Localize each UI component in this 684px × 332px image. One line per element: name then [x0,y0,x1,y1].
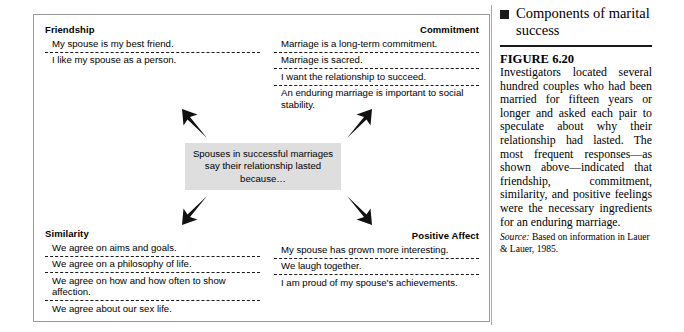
list-item: My spouse has grown more interesting. [274,243,479,258]
figure-page: Friendship My spouse is my best friend. … [0,0,684,332]
arrow-up-right-icon [343,107,377,141]
caption-heading: Components of marital success [500,5,652,38]
quadrant-title-positive-affect: Positive Affect [274,230,479,242]
item-list-similarity: We agree on aims and goals. We agree on … [45,241,260,317]
caption-body-text: Investigators located several hundred co… [500,66,652,229]
caption-heading-text: Components of marital success [516,5,652,38]
center-statement-text: Spouses in successful marriages say thei… [185,148,341,185]
list-item: We agree about our sex life. [45,300,260,317]
center-statement-box: Spouses in successful marriages say thei… [185,143,341,190]
list-item: I am proud of my spouse's achievements. [274,274,479,291]
arrow-down-right-icon [343,193,377,227]
caption-source-word: Source: [500,231,529,242]
list-item: Marriage is sacred. [274,52,479,69]
list-item: We agree on how and how often to show af… [45,272,260,300]
item-list-friendship: My spouse is my best friend. I like my s… [45,37,260,68]
quadrant-positive-affect: Positive Affect My spouse has grown more… [274,230,479,291]
item-list-positive-affect: My spouse has grown more interesting. We… [274,243,479,291]
filled-square-icon [500,10,509,19]
caption-column: Components of marital success FIGURE 6.2… [500,5,652,325]
figure-number-label: FIGURE 6.20 [500,52,652,67]
quadrant-friendship: Friendship My spouse is my best friend. … [45,24,260,68]
arrow-up-left-icon [177,107,211,141]
list-item: Marriage is a long-term commitment. [274,37,479,52]
list-item: We agree on a philosophy of life. [45,256,260,273]
list-item: We agree on aims and goals. [45,241,260,256]
caption-rule [500,45,652,47]
list-item: I want the relationship to succeed. [274,68,479,85]
list-item: My spouse is my best friend. [45,37,260,52]
quadrant-similarity: Similarity We agree on aims and goals. W… [45,228,260,317]
quadrant-title-commitment: Commitment [274,24,479,36]
item-list-commitment: Marriage is a long-term commitment. Marr… [274,37,479,113]
quadrant-title-similarity: Similarity [45,228,260,240]
quadrant-title-friendship: Friendship [45,24,260,36]
caption-source: Source: Based on information in Lauer & … [500,231,652,254]
arrow-down-left-icon [177,193,211,227]
list-item: We laugh together. [274,258,479,275]
figure-frame: Friendship My spouse is my best friend. … [33,14,490,322]
column-divider [491,5,492,325]
list-item: I like my spouse as a person. [45,52,260,69]
quadrant-commitment: Commitment Marriage is a long-term commi… [274,24,479,113]
